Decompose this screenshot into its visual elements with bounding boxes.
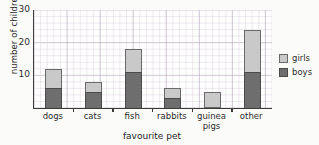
x-axis-title: favourite pet — [33, 131, 271, 141]
x-category-label-line: dogs — [33, 112, 73, 122]
bar-segment-girls — [125, 49, 142, 72]
x-category-label-line: pigs — [192, 122, 232, 132]
bar-segment-girls — [45, 69, 62, 89]
legend-label: girls — [292, 54, 310, 63]
bar-segment-girls — [164, 88, 181, 98]
bar-segment-boys — [125, 72, 142, 108]
bar-guinea-pigs — [204, 92, 221, 108]
bar-segment-girls — [85, 82, 102, 92]
bar-segment-boys — [45, 88, 62, 108]
x-category-label-line: fish — [112, 112, 152, 122]
bar-segment-boys — [164, 98, 181, 108]
legend-item-boys: boys — [279, 68, 312, 77]
bar-cats — [85, 82, 102, 108]
legend-swatch-girls-icon — [279, 54, 288, 63]
bar-segment-boys — [85, 92, 102, 108]
legend-swatch-boys-icon — [279, 68, 288, 77]
bar-chart: number of children 102030 dogscatsfishra… — [0, 0, 319, 145]
x-category-label-line: cats — [73, 112, 113, 122]
x-category-label-line: rabbits — [152, 112, 192, 122]
legend-item-girls: girls — [279, 54, 312, 63]
y-tick-label: 10 — [10, 70, 30, 79]
bar-segment-girls — [244, 30, 261, 72]
bar-segment-boys — [244, 72, 261, 108]
bars-container — [34, 10, 272, 108]
chart-legend: girlsboys — [279, 54, 312, 77]
legend-label: boys — [292, 68, 312, 77]
bar-rabbits — [164, 88, 181, 108]
bar-dogs — [45, 69, 62, 108]
bar-other — [244, 30, 261, 108]
bar-segment-girls — [204, 92, 221, 108]
x-category-label-line: other — [231, 112, 271, 122]
y-tick-label: 30 — [10, 5, 30, 14]
y-axis-tick-labels: 102030 — [9, 0, 30, 145]
bar-fish — [125, 49, 142, 108]
y-tick-label: 20 — [10, 38, 30, 47]
plot-area — [33, 10, 272, 109]
